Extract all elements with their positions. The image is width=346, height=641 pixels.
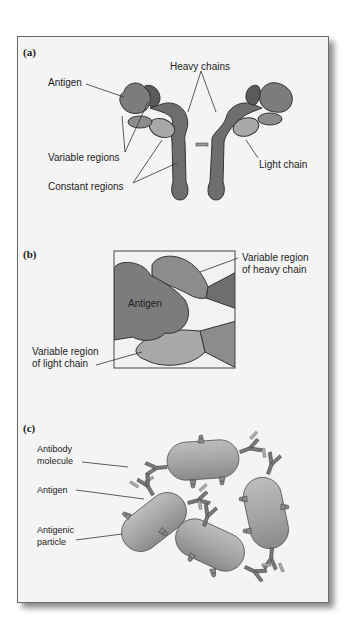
label-particle-1: Antigenic [37, 525, 75, 535]
label-antigen-b: Antigen [128, 298, 162, 309]
hinge-bridge [196, 143, 208, 146]
antibody-figure: (a) Heavy chains Antigen Var [0, 0, 346, 641]
label-antibody-1: Antibody [37, 444, 73, 454]
panel-c-label: (c) [23, 422, 36, 435]
label-light-chain: Light chain [259, 159, 307, 170]
label-constant-regions: Constant regions [48, 181, 124, 192]
panel-a-label: (a) [23, 46, 36, 59]
label-antigen-a: Antigen [48, 77, 82, 88]
label-particle-2: particle [37, 537, 66, 547]
antigenic-particle-1 [166, 435, 240, 488]
label-variable-regions: Variable regions [48, 152, 120, 163]
label-heavy-chains: Heavy chains [170, 61, 230, 72]
label-antibody-2: molecule [37, 456, 73, 466]
label-var-light-2: of light chain [32, 358, 88, 369]
label-var-light-1: Variable region [32, 346, 99, 357]
label-antigen-c: Antigen [37, 485, 68, 495]
panel-a: (a) Heavy chains Antigen Var [23, 46, 307, 200]
panel-b-label: (b) [23, 248, 37, 261]
label-var-heavy-2: of heavy chain [242, 264, 307, 275]
label-var-heavy-1: Variable region [242, 252, 309, 263]
panel-b: (b) Antigen Variable region of heavy cha… [23, 248, 309, 370]
panel-c: (c) [23, 422, 292, 583]
antibody-right-arm [208, 83, 292, 200]
antigenic-particle-3 [239, 474, 292, 552]
